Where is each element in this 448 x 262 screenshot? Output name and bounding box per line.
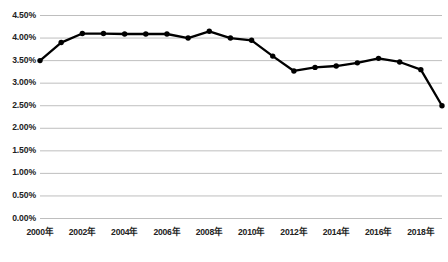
x-axis-tick-label: 2010年 [230, 225, 274, 237]
data-point [397, 59, 402, 64]
data-point [376, 56, 381, 61]
data-point [37, 58, 42, 63]
gridlines [40, 16, 442, 219]
data-point [418, 67, 423, 72]
chart-canvas [0, 0, 448, 262]
y-axis-tick-label: 2.00% [0, 122, 36, 132]
data-point [143, 31, 148, 36]
data-point [207, 29, 212, 34]
data-point [291, 68, 296, 73]
x-axis-tick-label: 2008年 [187, 225, 231, 237]
y-axis-tick-label: 3.00% [0, 77, 36, 87]
y-axis-tick-label: 3.50% [0, 55, 36, 65]
y-axis-tick-label: 2.50% [0, 100, 36, 110]
data-point [80, 31, 85, 36]
x-axis-tick-label: 2014年 [314, 225, 358, 237]
y-axis-tick-label: 4.50% [0, 10, 36, 20]
data-point [185, 35, 190, 40]
x-axis-tick-label: 2000年 [18, 225, 62, 237]
data-point [58, 40, 63, 45]
y-axis-tick-label: 0.00% [0, 213, 36, 223]
x-axis-tick-label: 2002年 [60, 225, 104, 237]
x-axis-tick-label: 2012年 [272, 225, 316, 237]
line-chart: 4.50%4.00%3.50%3.00%2.50%2.00%1.50%1.00%… [0, 0, 448, 262]
series-line [40, 31, 442, 105]
data-point [101, 31, 106, 36]
y-axis-tick-label: 1.00% [0, 167, 36, 177]
data-point [249, 38, 254, 43]
x-axis-tick-label: 2006年 [145, 225, 189, 237]
data-point [312, 65, 317, 70]
x-axis-tick-label: 2018年 [399, 225, 443, 237]
data-point [228, 35, 233, 40]
data-point [334, 63, 339, 68]
data-point [270, 53, 275, 58]
data-point [439, 103, 444, 108]
y-axis-tick-label: 4.00% [0, 32, 36, 42]
series-group [37, 29, 444, 109]
data-point [355, 60, 360, 65]
x-axis-tick-label: 2016年 [357, 225, 401, 237]
x-axis-tick-label: 2004年 [103, 225, 147, 237]
y-axis-tick-label: 1.50% [0, 145, 36, 155]
data-point [164, 31, 169, 36]
y-axis-tick-label: 0.50% [0, 190, 36, 200]
data-point [122, 31, 127, 36]
